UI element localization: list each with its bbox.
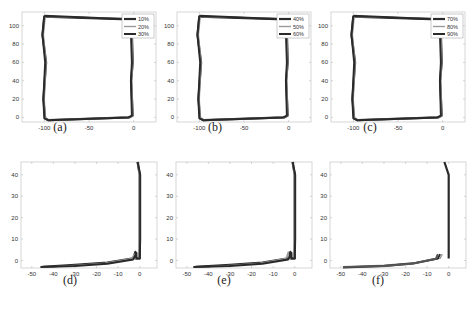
plot-area: -100-50002040608010070%80%90%: [331, 12, 465, 122]
y-tick-label: 30: [11, 193, 18, 199]
plot-area: -50-40-30-20-100010203040: [21, 162, 157, 268]
axes-frame: [330, 162, 466, 268]
y-tick-label: 40: [320, 172, 327, 178]
chart-panel-d: -50-40-30-20-100010203040: [21, 162, 157, 268]
y-tick-label: 0: [15, 258, 19, 264]
legend: 70%80%90%: [431, 14, 463, 38]
legend-entry: 60%: [293, 31, 304, 37]
y-tick-label: 30: [166, 193, 173, 199]
x-tick-label: -20: [247, 271, 256, 277]
x-tick-label: -50: [394, 125, 403, 131]
legend-entry: 10%: [138, 16, 149, 22]
plot-area: -100-50002040608010040%50%60%: [177, 12, 311, 122]
legend-entry: 40%: [293, 16, 304, 22]
legend-entry: 30%: [138, 31, 149, 37]
y-tick-label: 20: [320, 215, 327, 221]
y-tick-label: 0: [325, 114, 329, 120]
y-tick-label: 40: [166, 172, 173, 178]
x-tick-label: -50: [240, 125, 249, 131]
x-tick-label: -50: [336, 271, 345, 277]
y-tick-label: 40: [11, 172, 18, 178]
x-tick-label: -50: [27, 271, 36, 277]
x-tick-label: 0: [441, 125, 445, 131]
y-tick-label: 100: [9, 23, 20, 29]
x-tick-label: 0: [132, 125, 136, 131]
legend-entry: 50%: [293, 24, 304, 30]
y-tick-label: 10: [11, 236, 18, 242]
chart-panel-b: -100-50002040608010040%50%60%: [177, 12, 311, 122]
y-tick-label: 20: [11, 215, 18, 221]
legend-entry: 20%: [138, 24, 149, 30]
plot-area: -100-50002040608010010%20%30%: [22, 12, 156, 122]
x-tick-label: -50: [85, 125, 94, 131]
y-tick-label: 100: [164, 23, 175, 29]
y-tick-label: 40: [167, 78, 174, 84]
y-tick-label: 80: [12, 41, 19, 47]
y-tick-label: 40: [321, 78, 328, 84]
y-tick-label: 0: [171, 114, 175, 120]
x-tick-label: -10: [423, 271, 432, 277]
x-tick-label: -50: [182, 271, 191, 277]
y-tick-label: 10: [166, 236, 173, 242]
x-tick-label: -20: [92, 271, 101, 277]
chart-panel-e: -50-40-30-20-100010203040: [176, 162, 312, 268]
y-tick-label: 80: [321, 41, 328, 47]
y-tick-label: 20: [166, 215, 173, 221]
panel-caption-b: (b): [195, 120, 235, 135]
x-tick-label: 0: [447, 271, 451, 277]
y-tick-label: 60: [321, 59, 328, 65]
x-tick-label: 0: [138, 271, 142, 277]
panel-caption-d: (d): [50, 273, 90, 288]
y-tick-label: 10: [320, 236, 327, 242]
y-tick-label: 0: [324, 258, 328, 264]
y-tick-label: 60: [12, 59, 19, 65]
legend: 40%50%60%: [277, 14, 309, 38]
y-tick-label: 80: [167, 41, 174, 47]
legend-entry: 70%: [447, 16, 458, 22]
y-tick-label: 30: [320, 193, 327, 199]
x-tick-label: -20: [401, 271, 410, 277]
y-tick-label: 60: [167, 59, 174, 65]
x-tick-label: -10: [114, 271, 123, 277]
panel-caption-c: (c): [350, 120, 390, 135]
panel-caption-a: (a): [40, 120, 80, 135]
x-tick-label: 0: [287, 125, 291, 131]
chart-panel-f: -50-40-30-20-100010203040: [330, 162, 466, 268]
y-tick-label: 0: [170, 258, 174, 264]
y-tick-label: 100: [318, 23, 329, 29]
x-tick-label: -10: [269, 271, 278, 277]
chart-panel-c: -100-50002040608010070%80%90%: [331, 12, 465, 122]
plot-area: -50-40-30-20-100010203040: [330, 162, 466, 268]
legend-entry: 90%: [447, 31, 458, 37]
y-tick-label: 40: [12, 78, 19, 84]
y-tick-label: 20: [321, 96, 328, 102]
chart-panel-a: -100-50002040608010010%20%30%: [22, 12, 156, 122]
y-tick-label: 20: [167, 96, 174, 102]
panel-caption-e: (e): [204, 273, 244, 288]
legend: 10%20%30%: [122, 14, 154, 38]
plot-area: -50-40-30-20-100010203040: [176, 162, 312, 268]
panel-caption-f: (f): [358, 273, 398, 288]
y-tick-label: 0: [16, 114, 20, 120]
x-tick-label: 0: [293, 271, 297, 277]
y-tick-label: 20: [12, 96, 19, 102]
legend-entry: 80%: [447, 24, 458, 30]
